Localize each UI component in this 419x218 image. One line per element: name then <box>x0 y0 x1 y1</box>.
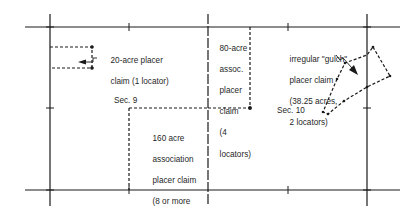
label-line: placer claim <box>290 76 334 85</box>
label-line: irregular "gulch" <box>290 55 348 64</box>
label-line: 80-acre <box>220 44 248 53</box>
label-line: placer claim <box>153 176 197 185</box>
label-line: locators) <box>220 150 251 159</box>
arrow-20-acre <box>78 58 97 65</box>
label-line: (4 <box>220 128 227 137</box>
claim-20-acre-label: 20-acre placer claim (1 locator) <box>106 45 169 87</box>
label-line: claim (1 locator) <box>111 77 169 86</box>
claims-map <box>0 0 419 218</box>
label-line: (38.25 acres, <box>290 97 338 106</box>
claim-80-acre-label: 80-acre assoc. placer claim (4 locators) <box>215 33 251 160</box>
section-9-label: Sec. 9 <box>114 96 137 107</box>
label-line: association <box>153 155 194 164</box>
section-10-label: Sec. 10 <box>277 106 305 117</box>
label-line: 2 locators) <box>290 118 328 127</box>
claim-20-acre-outline <box>50 47 92 68</box>
label-line: 20-acre placer <box>111 56 163 65</box>
label-line: (8 or more <box>153 197 191 206</box>
label-line: assoc. <box>220 65 244 74</box>
label-line: placer <box>220 86 242 95</box>
claim-160-acre-label: 160 acre association placer claim (8 or … <box>148 123 196 218</box>
label-line: claim <box>220 107 239 116</box>
label-line: 160 acre <box>153 134 185 143</box>
